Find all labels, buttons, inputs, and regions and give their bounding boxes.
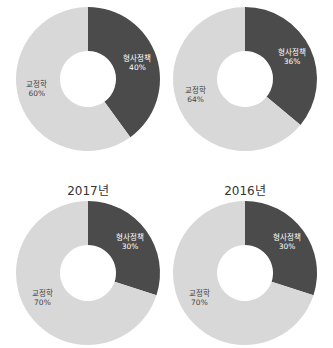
label-corrections: 교정학: [189, 288, 210, 298]
label-criminal-policy-pct: 30%: [122, 242, 139, 251]
label-corrections: 교정학: [26, 79, 47, 89]
label-corrections-pct: 70%: [34, 298, 51, 307]
label-corrections: 교정학: [32, 288, 53, 298]
donut-chart-top-right: 형사정책 36% 교정학 64%: [173, 7, 317, 151]
donut-chart-2017: 2017년 형사정책 30% 교정학 70%: [16, 184, 160, 345]
label-corrections-pct: 60%: [29, 89, 46, 98]
chart-title-2017: 2017년: [67, 184, 109, 198]
chart-title-2016: 2016년: [224, 184, 266, 198]
donut-chart-2016: 2016년 형사정책 30% 교정학 70%: [173, 184, 317, 345]
label-criminal-policy-pct: 30%: [279, 242, 296, 251]
donut-chart-top-left: 형사정책 40% 교정학 60%: [16, 7, 160, 151]
label-criminal-policy-pct: 36%: [284, 57, 301, 66]
label-corrections-pct: 64%: [187, 95, 204, 104]
label-criminal-policy: 형사정책: [278, 47, 306, 57]
label-criminal-policy: 형사정책: [273, 232, 301, 242]
label-corrections: 교정학: [185, 85, 206, 95]
label-criminal-policy: 형사정책: [116, 232, 144, 242]
label-criminal-policy: 형사정책: [123, 53, 151, 63]
donut-charts-canvas: 형사정책 40% 교정학 60% 형사정책 36% 교정학 64% 2017년 …: [0, 0, 333, 348]
label-corrections-pct: 70%: [191, 298, 208, 307]
label-criminal-policy-pct: 40%: [129, 63, 146, 72]
